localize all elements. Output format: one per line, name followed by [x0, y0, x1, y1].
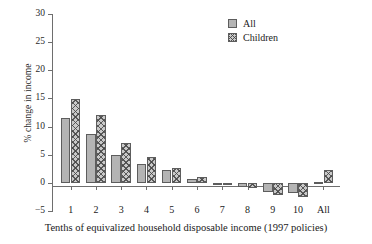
bar-all-9	[263, 183, 273, 192]
x-tick-mark	[71, 186, 72, 190]
bar-all-1	[61, 118, 71, 183]
legend-label-all: All	[243, 18, 256, 29]
bar-all-2	[86, 134, 96, 182]
x-tick-mark	[222, 186, 223, 190]
bar-children-2	[96, 115, 106, 183]
y-tick-mark	[48, 98, 53, 99]
legend-item-children: Children	[228, 30, 278, 44]
y-tick-mark	[48, 14, 53, 15]
y-tick-mark	[48, 155, 53, 156]
x-tick-label: All	[303, 204, 343, 215]
y-tick-label: 30	[12, 9, 45, 19]
bar-chart-figure: % change in income 302520151050−51234567…	[0, 0, 372, 244]
y-axis-line	[52, 14, 53, 211]
bar-children-5	[172, 168, 182, 183]
bar-children-6	[197, 177, 207, 183]
bar-children-10	[298, 183, 308, 198]
solid-gray-swatch-icon	[228, 19, 237, 28]
y-tick-label: 5	[12, 150, 45, 160]
y-tick-mark	[48, 70, 53, 71]
y-tick-label: 0	[12, 178, 45, 188]
x-tick-mark	[121, 186, 122, 190]
x-tick-mark	[197, 186, 198, 190]
bar-children-3	[121, 143, 131, 183]
x-tick-mark	[323, 186, 324, 190]
bar-children-4	[147, 157, 157, 183]
x-tick-mark	[146, 186, 147, 190]
bar-all-10	[288, 183, 298, 193]
y-tick-label: 25	[12, 37, 45, 47]
y-tick-mark	[48, 127, 53, 128]
legend-item-all: All	[228, 16, 278, 30]
chart-legend: All Children	[228, 16, 278, 44]
bar-all-all	[314, 182, 324, 184]
legend-label-children: Children	[243, 32, 278, 43]
y-tick-label: 10	[12, 122, 45, 132]
y-tick-label: 15	[12, 93, 45, 103]
bar-all-8	[238, 183, 248, 188]
y-tick-label: −5	[12, 206, 45, 216]
hatched-swatch-icon	[228, 33, 237, 42]
plot-area: 302520151050−512345678910All	[52, 14, 340, 211]
bar-children-7	[223, 183, 233, 185]
y-tick-label: 20	[12, 65, 45, 75]
bar-all-3	[111, 155, 121, 183]
bar-all-6	[187, 179, 197, 183]
bar-children-1	[71, 99, 81, 183]
y-tick-mark	[48, 42, 53, 43]
x-tick-mark	[172, 186, 173, 190]
bar-all-4	[137, 164, 147, 183]
bar-all-5	[162, 170, 172, 182]
bar-all-7	[213, 183, 223, 185]
x-axis-title: Tenths of equivalized household disposab…	[0, 222, 372, 233]
x-tick-mark	[96, 186, 97, 190]
bar-children-all	[324, 170, 334, 183]
y-tick-mark	[48, 183, 53, 184]
bar-children-9	[273, 183, 283, 195]
bar-children-8	[248, 183, 258, 189]
